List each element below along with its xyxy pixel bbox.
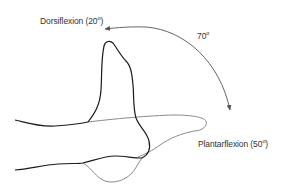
range-of-motion-arc [146, 27, 230, 110]
degree-symbol: o [206, 30, 209, 36]
dorsiflexed-foot [88, 41, 150, 158]
dorsiflexed-foot-front [88, 41, 136, 122]
dorsiflexion-label: Dorsiflexion (20o) [40, 17, 103, 26]
plantarflexion-label: Plantarflexion (50o) [198, 140, 268, 149]
degree-symbol: o [262, 138, 265, 144]
plantarflexed-foot [83, 115, 206, 182]
lower-leg [15, 120, 142, 170]
plantarflexion-name: Plantarflexion [198, 139, 248, 149]
total-range-label: 70o [197, 32, 209, 41]
ankle-motion-diagram [0, 0, 284, 195]
dorsiflexion-close-paren: ) [100, 16, 103, 26]
plantarflexed-heel-bump [83, 158, 142, 182]
arc-arrow-to-dorsiflexion [105, 27, 146, 29]
total-range-value: 70 [197, 31, 206, 41]
plantarflexion-value: 50 [253, 139, 262, 149]
plantarflexion-close-paren: ) [265, 139, 268, 149]
dorsiflexion-name: Dorsiflexion [40, 16, 83, 26]
leg-upper-outline [15, 120, 88, 126]
leg-lower-outline [15, 156, 142, 170]
